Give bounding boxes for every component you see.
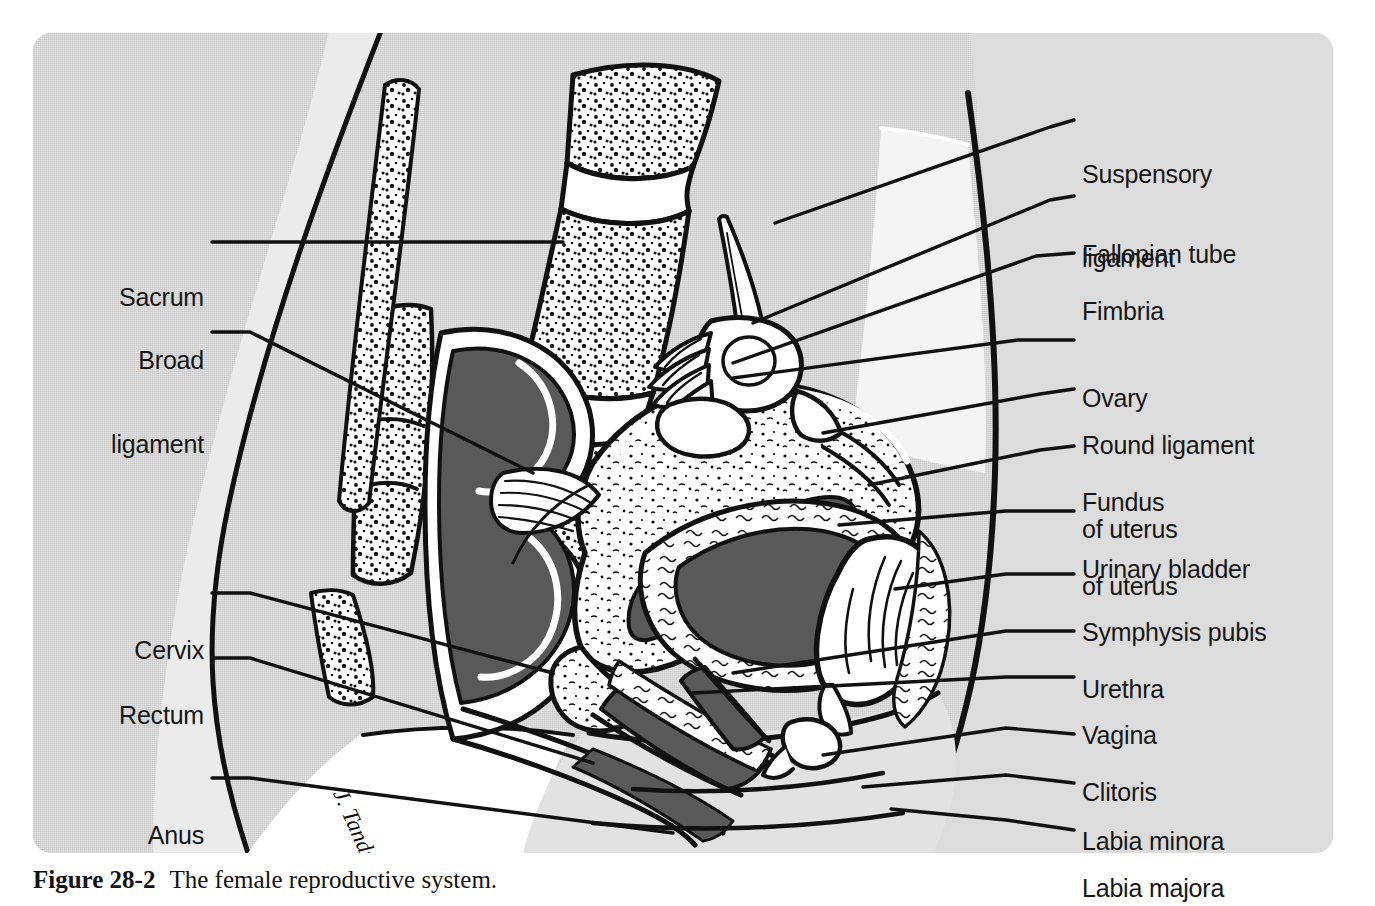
label-line-2: ligament bbox=[111, 430, 204, 458]
figure-caption-text: The female reproductive system. bbox=[169, 866, 497, 893]
label-broad-ligament: Broad ligament bbox=[111, 290, 204, 514]
label-line-1: Fimbria bbox=[1082, 297, 1164, 325]
label-rectum: Rectum bbox=[119, 645, 204, 785]
figure-caption: Figure 28-2The female reproductive syste… bbox=[33, 866, 1333, 894]
label-line-1: Rectum bbox=[119, 701, 204, 729]
label-line-1: Anus bbox=[148, 821, 204, 849]
figure-number: Figure 28-2 bbox=[33, 866, 155, 893]
label-line-1: Broad bbox=[111, 346, 204, 374]
